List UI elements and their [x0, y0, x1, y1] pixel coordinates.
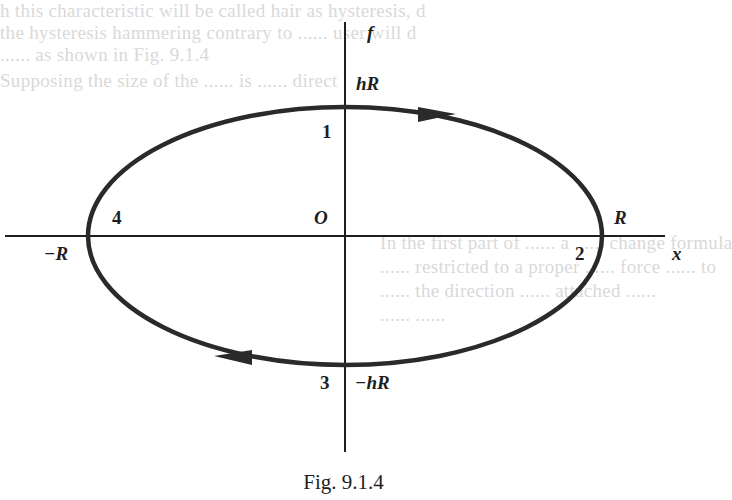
- f-axis-label: f: [367, 23, 373, 42]
- point-3-label: 3: [320, 373, 330, 392]
- x-axis-label: x: [672, 244, 682, 263]
- point-2-label: 2: [575, 244, 585, 263]
- top-intercept-label: hR: [356, 74, 379, 93]
- point-4-label: 4: [112, 208, 122, 227]
- origin-label: O: [314, 208, 328, 227]
- right-intercept-label: R: [614, 208, 627, 227]
- bottom-intercept-label: −hR: [355, 373, 390, 392]
- point-1-label: 1: [322, 122, 332, 141]
- left-intercept-label: −R: [44, 244, 68, 263]
- figure-caption: Fig. 9.1.4: [0, 470, 687, 495]
